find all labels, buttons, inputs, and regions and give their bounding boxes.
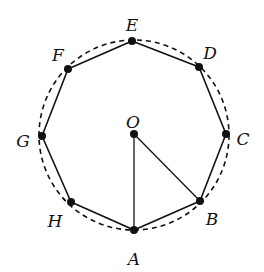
- segment-ob: [134, 134, 200, 201]
- point-a: [130, 226, 138, 234]
- label-e: E: [125, 15, 139, 35]
- label-o: O: [126, 112, 140, 132]
- label-f: F: [51, 45, 65, 65]
- point-f: [64, 65, 72, 73]
- point-d: [195, 63, 203, 71]
- label-g: G: [16, 131, 30, 151]
- point-c: [222, 130, 230, 138]
- octagon-diagram: ABCDEFGHO: [0, 0, 264, 272]
- point-h: [67, 198, 75, 206]
- label-c: C: [236, 129, 249, 149]
- label-h: H: [47, 211, 64, 231]
- point-e: [128, 37, 136, 45]
- point-g: [38, 132, 46, 140]
- point-b: [196, 197, 204, 205]
- label-a: A: [126, 249, 140, 269]
- label-d: D: [202, 43, 217, 63]
- label-b: B: [205, 209, 219, 229]
